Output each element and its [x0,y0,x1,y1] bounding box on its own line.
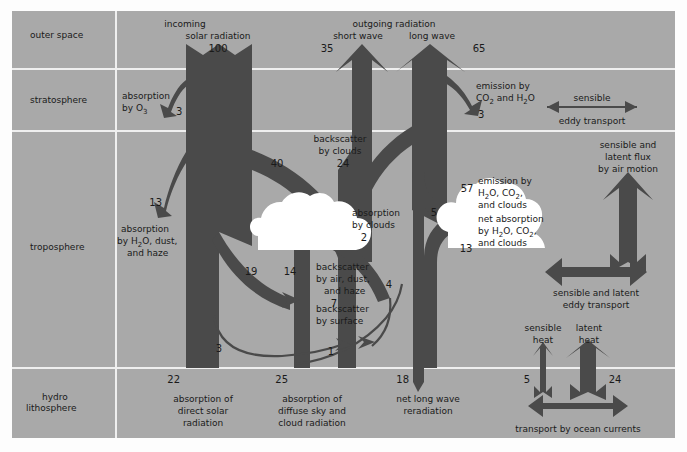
label-direct-solar-line1: absorption of [173,394,233,404]
label-net-absorption-line1: net absorption [478,214,544,224]
label-backscatter-surface-line2: by surface [316,316,364,326]
value-latent-heat: 24 [609,374,622,385]
label-flux-air-motion-line3: by air motion [598,164,658,174]
label-transport-ocean-currents: transport by ocean currents [515,424,641,434]
label-absorption-clouds-line2: by clouds [352,220,395,230]
label-sensible-heat-line2: heat [533,335,554,345]
value-5-net-absorption: 5 [431,207,437,218]
label-diffuse-sky-line1: absorption of [282,394,342,404]
value-57: 57 [461,183,474,194]
label-sensible-heat-line1: sensible [525,323,562,333]
label-diffuse-sky-line2: diffuse sky and [278,406,346,416]
value-3-diffuse: 3 [216,343,222,354]
zone-label-outer-space: outer space [30,30,84,40]
value-absorption-h2o-dust-haze: 13 [149,197,162,208]
value-absorption-o3: 3 [176,106,182,117]
label-long-wave: long wave [409,31,455,41]
label-direct-solar-line3: radiation [183,418,223,428]
label-emission-co2-h2o-line1: emission by [476,81,530,91]
label-backscatter-air-line2: by air, dust, [316,274,370,284]
label-eddy-transport-line1: sensible and latent [553,288,639,298]
label-flux-air-motion-line1: sensible and [600,140,657,150]
label-direct-solar-line2: direct solar [178,406,229,416]
label-net-absorption-line3: and clouds [478,238,527,248]
label-outgoing-radiation: outgoing radiation [353,19,436,29]
label-absorption-o3-line1: absorption [122,91,170,101]
value-19: 19 [245,266,258,277]
value-14: 14 [284,266,297,277]
value-25: 25 [275,374,288,385]
label-sensible-eddy-line1: sensible [574,93,611,103]
label-diffuse-sky-line3: cloud radiation [278,418,345,428]
diagram-canvas: outer space stratosphere troposphere hyd… [0,0,687,452]
label-net-long-wave-line2: reradiation [403,406,452,416]
label-incoming-solar-line2: solar radiation [186,31,251,41]
value-1-backscatter-surface: 1 [328,346,334,357]
value-sensible-heat: 5 [524,374,530,385]
label-absorption-h2o-line3: and haze [127,248,169,258]
label-backscatter-air-line3: and haze [324,286,366,296]
label-backscatter-air-line1: backscatter [316,262,369,272]
label-absorption-h2o-line1: absorption [121,224,169,234]
label-latent-heat-line1: latent [576,323,603,333]
label-emission-h2o-line3: and clouds [478,200,527,210]
label-short-wave: short wave [333,31,383,41]
label-flux-air-motion-line2: latent flux [605,152,652,162]
value-18: 18 [396,374,409,385]
zone-label-stratosphere: stratosphere [30,95,88,105]
label-incoming-solar-line1: incoming [164,19,205,29]
energy-balance-figure: outer space stratosphere troposphere hyd… [0,0,687,452]
value-incoming-solar: 100 [208,43,227,54]
value-13-net-absorption: 13 [460,243,473,254]
value-absorption-clouds: 2 [361,232,367,243]
label-absorption-clouds-line1: absorption [352,208,400,218]
value-backscatter-clouds-40: 40 [271,158,284,169]
value-long-wave: 65 [473,43,486,54]
label-eddy-transport-line2: eddy transport [563,300,630,310]
label-latent-heat-line2: heat [579,335,600,345]
flow-incoming-solar-right [219,44,252,246]
value-4: 4 [386,279,392,290]
label-backscatter-clouds-line2: by clouds [319,146,362,156]
value-backscatter-clouds-24: 24 [337,158,350,169]
value-short-wave: 35 [321,43,334,54]
label-backscatter-clouds-line1: backscatter [314,134,367,144]
flow-long-wave-trunk [413,118,424,382]
label-net-long-wave-line1: net long wave [396,394,460,404]
label-sensible-eddy-line2: eddy transport [559,116,626,126]
value-emission-co2-h2o: 3 [478,109,484,120]
label-backscatter-surface-line1: backscatter [316,304,369,314]
label-emission-h2o-line1: emission by [478,176,532,186]
zone-label-hydro: hydro [42,392,68,402]
zone-label-troposphere: troposphere [30,242,85,252]
value-22: 22 [167,374,180,385]
zone-label-lithosphere: lithosphere [26,403,77,413]
